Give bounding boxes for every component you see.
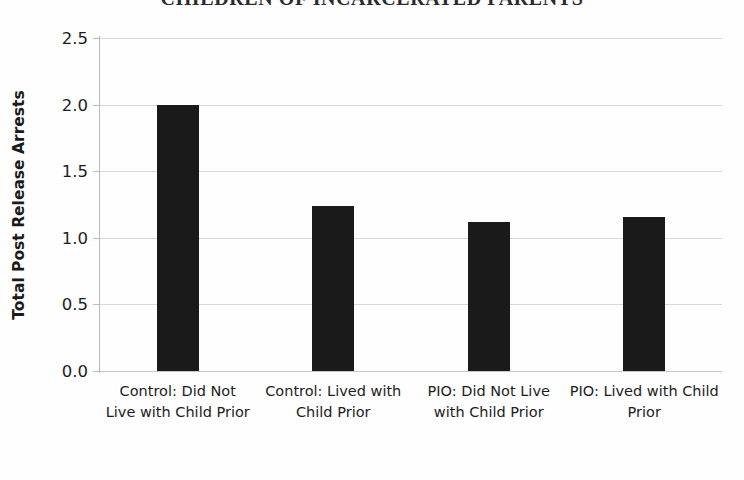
y-axis-title: Total Post Release Arrests: [6, 38, 32, 371]
y-tick-label: 0.5: [62, 295, 88, 314]
y-tick-mark: [93, 371, 99, 372]
y-tick-mark: [93, 38, 99, 39]
x-axis-label: Control: Lived with Child Prior: [258, 381, 408, 423]
y-tick-mark: [93, 105, 99, 106]
y-tick-label: 2.5: [62, 29, 88, 48]
y-axis-line: [99, 36, 100, 373]
bar: [623, 217, 665, 372]
chart-title: CHILDREN OF INCARCERATED PARENTS: [0, 0, 744, 10]
gridline: [100, 371, 722, 372]
y-axis-title-text: Total Post Release Arrests: [10, 90, 28, 319]
plot-area: 0.00.51.01.52.02.5: [100, 38, 722, 371]
y-tick-mark: [93, 171, 99, 172]
bar-chart-figure: CHILDREN OF INCARCERATED PARENTS Total P…: [0, 0, 744, 480]
gridline: [100, 38, 722, 39]
y-tick-mark: [93, 238, 99, 239]
bar: [157, 105, 199, 371]
x-axis-labels: Control: Did Not Live with Child PriorCo…: [100, 381, 722, 461]
chart-title-clip: CHILDREN OF INCARCERATED PARENTS: [0, 0, 744, 11]
x-axis-label: PIO: Lived with Child Prior: [569, 381, 719, 423]
y-tick-label: 2.0: [62, 95, 88, 114]
bar: [468, 222, 510, 371]
y-tick-label: 1.5: [62, 162, 88, 181]
y-tick-mark: [93, 304, 99, 305]
y-tick-label: 1.0: [62, 228, 88, 247]
y-tick-label: 0.0: [62, 362, 88, 381]
bar: [312, 206, 354, 371]
x-axis-label: PIO: Did Not Live with Child Prior: [414, 381, 564, 423]
x-axis-label: Control: Did Not Live with Child Prior: [103, 381, 253, 423]
